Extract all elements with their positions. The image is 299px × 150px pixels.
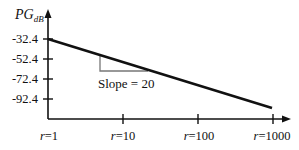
y-tick-label: -32.4 [12,32,39,46]
y-tick-label: -52.4 [12,52,39,66]
path-gain-chart: PGdB -32.4 -52.4 -72.4 -92.4 r=1 r=10 r=… [0,0,299,150]
x-tick-label: r=1 [40,129,58,143]
x-tick-label: r=10 [111,129,135,143]
slope-annotation: Slope = 20 [98,76,154,91]
y-tick-label: -72.4 [12,72,39,86]
x-tick-label: r=100 [184,129,215,143]
y-axis-arrow-icon [45,9,52,18]
x-axis-arrow-icon [282,116,291,123]
y-axis-title-main: PG [14,7,34,22]
path-gain-line [48,39,272,108]
x-axis [48,114,291,124]
y-axis-title: PGdB [14,7,44,24]
x-tick-label: r=1000 [254,129,291,143]
y-axis-title-sub: dB [34,14,45,24]
y-tick-label: -92.4 [12,92,39,106]
y-axis [43,9,53,119]
